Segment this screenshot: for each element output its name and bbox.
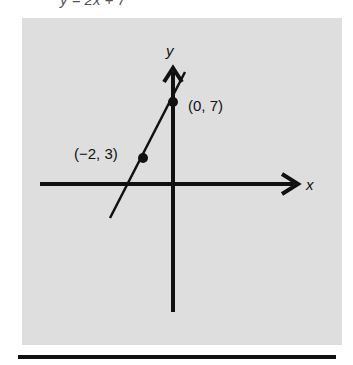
bottom-rule xyxy=(18,355,336,359)
point-label-0-7: (0, 7) xyxy=(188,97,223,114)
x-axis-label: x xyxy=(306,176,314,193)
point-neg2-3 xyxy=(138,153,148,163)
y-axis-label: y xyxy=(166,42,174,59)
graph-svg xyxy=(0,0,353,365)
point-0-7 xyxy=(168,97,178,107)
point-label-neg2-3: (−2, 3) xyxy=(74,145,118,162)
